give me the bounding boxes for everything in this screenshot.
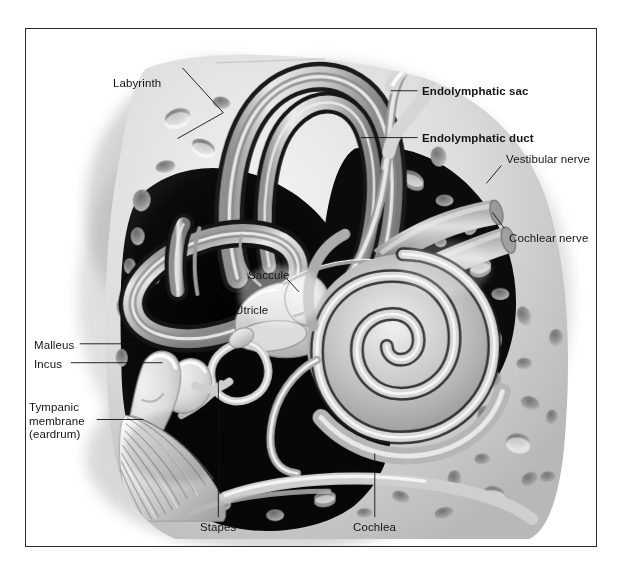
anatomy-figure-root: Labyrinth Endolymphatic sac Endolymphati… bbox=[0, 0, 618, 572]
inner-ear-illustration bbox=[26, 29, 596, 546]
label-endolymphatic-duct: Endolymphatic duct bbox=[422, 132, 534, 146]
label-tympanic-membrane: Tympanic membrane (eardrum) bbox=[29, 401, 85, 442]
figure-frame-border: Labyrinth Endolymphatic sac Endolymphati… bbox=[25, 28, 597, 547]
label-cochlea: Cochlea bbox=[353, 521, 396, 535]
label-endolymphatic-sac: Endolymphatic sac bbox=[422, 85, 529, 99]
label-stapes: Stapes bbox=[200, 521, 236, 535]
label-labyrinth: Labyrinth bbox=[113, 77, 161, 91]
label-incus: Incus bbox=[34, 358, 62, 372]
label-saccule: Saccule bbox=[248, 269, 290, 283]
label-malleus: Malleus bbox=[34, 339, 74, 353]
label-cochlear-nerve: Cochlear nerve bbox=[509, 232, 588, 246]
label-utricle: Utricle bbox=[235, 304, 268, 318]
label-vestibular-nerve: Vestibular nerve bbox=[506, 153, 590, 167]
